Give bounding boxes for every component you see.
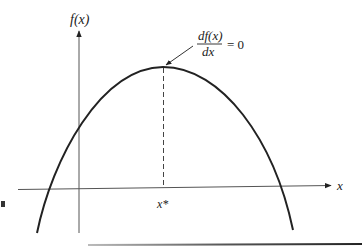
derivative-rhs: = 0 — [227, 37, 244, 52]
derivative-numerator: df(x) — [198, 28, 223, 43]
derivative-annotation: df(x) dx = 0 — [197, 28, 244, 59]
x-axis — [18, 186, 331, 190]
y-axis-label: f(x) — [70, 12, 90, 28]
annotation-arrow — [166, 46, 193, 65]
critical-point-label: x* — [156, 197, 168, 211]
bottom-rule — [88, 244, 362, 245]
x-axis-label: x — [336, 178, 343, 193]
derivative-denominator: dx — [202, 44, 215, 59]
margin-mark — [1, 201, 5, 207]
maximum-diagram: f(x) x x* df(x) dx = 0 — [0, 0, 362, 247]
